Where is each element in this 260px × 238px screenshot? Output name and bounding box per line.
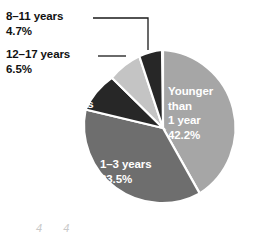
pie-chart-figure: 8–11 years 4.7% 12–17 years 6.5% Younger…	[0, 0, 260, 238]
pie-label-4-7-years-name: 4–7 years	[42, 98, 94, 110]
pie-label-12-17-years-percent: 6.5%	[6, 62, 70, 77]
pie-label-younger-line3: 1 year	[168, 114, 201, 126]
pie-label-12-17-years: 12–17 years 6.5%	[6, 47, 70, 76]
pie-label-1-3-years-percent: 33.5%	[100, 172, 152, 187]
pie-label-younger-line1: Younger	[168, 85, 213, 97]
pie-label-8-11-years-percent: 4.7%	[6, 24, 63, 39]
pie-label-8-11-years-name: 8–11 years	[6, 10, 63, 22]
pie-label-4-7-years-percent: 12.9%	[42, 112, 94, 127]
pie-label-younger-line2: than	[168, 100, 192, 112]
pie-label-12-17-years-name: 12–17 years	[6, 48, 70, 60]
pie-label-younger-than-1-year: Younger than 1 year 42.2%	[168, 84, 213, 142]
pie-label-1-3-years-name: 1–3 years	[100, 158, 152, 170]
footer-artifact-text: 4 4	[36, 222, 78, 234]
pie-label-8-11-years: 8–11 years 4.7%	[6, 9, 63, 38]
leader-line-8-11-years	[93, 18, 148, 50]
pie-label-younger-percent: 42.2%	[168, 129, 200, 141]
pie-label-4-7-years: 4–7 years 12.9%	[42, 97, 94, 126]
pie-label-1-3-years: 1–3 years 33.5%	[100, 157, 152, 186]
